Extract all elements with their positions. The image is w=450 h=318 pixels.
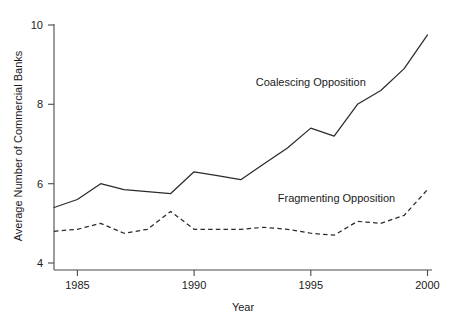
- y-tick-label-6: 6: [37, 178, 43, 190]
- y-tick-label-4: 4: [37, 257, 43, 269]
- y-axis-tick-labels: 10 8 6 4: [31, 19, 43, 269]
- x-tick-label-1995: 1995: [299, 279, 323, 291]
- series-line-coalescing: [54, 35, 428, 208]
- series-label-coalescing: Coalescing Opposition: [256, 76, 366, 88]
- x-axis-title: Year: [232, 301, 255, 313]
- y-tick-label-8: 8: [37, 98, 43, 110]
- x-tick-label-1990: 1990: [182, 279, 206, 291]
- y-axis-ticks: [48, 25, 54, 263]
- chart-container: Average Number of Commercial Banks 10 8 …: [0, 0, 450, 318]
- y-axis-title: Average Number of Commercial Banks: [12, 50, 24, 241]
- x-tick-label-1985: 1985: [65, 279, 89, 291]
- line-chart: Average Number of Commercial Banks 10 8 …: [0, 0, 450, 318]
- x-axis-tick-labels: 1985 1990 1995 2000: [65, 279, 440, 291]
- x-axis-ticks: [77, 270, 427, 276]
- series-label-fragmenting: Fragmenting Opposition: [278, 192, 395, 204]
- x-tick-label-2000: 2000: [415, 279, 439, 291]
- y-tick-label-10: 10: [31, 19, 43, 31]
